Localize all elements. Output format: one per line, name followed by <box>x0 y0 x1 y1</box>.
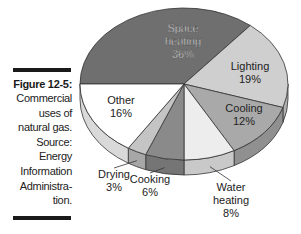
slice-name-label: Drying <box>98 168 130 180</box>
slice-name-label: Cooling <box>225 102 262 114</box>
slice-value-label: 19% <box>239 73 261 85</box>
slice-value-label: 16% <box>110 107 132 119</box>
slice-name-label: heating <box>213 194 249 206</box>
slice-name-label: Water <box>217 181 246 193</box>
slice-name-label: Other <box>107 94 135 106</box>
slice-name-label: heating <box>165 35 201 47</box>
slice-name-label: Space <box>167 22 198 34</box>
slice-value-label: 6% <box>142 186 158 198</box>
slice-value-label: 12% <box>233 115 255 127</box>
slice-value-label: 3% <box>106 181 122 193</box>
slice-value-label: 8% <box>223 207 239 219</box>
pie-chart: Spaceheating36%Lighting19%Cooling12%Wate… <box>0 0 301 234</box>
slice-name-label: Lighting <box>231 60 270 72</box>
slice-value-label: 36% <box>172 48 194 60</box>
slice-name-label: Cooking <box>130 173 170 185</box>
